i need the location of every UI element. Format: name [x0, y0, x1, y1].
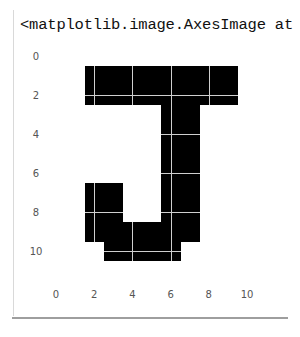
gridline-vertical [94, 183, 95, 203]
y-tick-label: 2 [33, 90, 39, 101]
gridline-horizontal [218, 95, 238, 96]
gridline-horizontal [85, 95, 105, 96]
x-tick-label: 2 [91, 289, 97, 300]
gridline-vertical [171, 105, 172, 125]
gridline-horizontal [180, 134, 200, 135]
image-pixel [218, 66, 238, 86]
gridline-horizontal [161, 251, 181, 252]
x-tick-label: 4 [129, 289, 135, 300]
gridline-horizontal [104, 95, 124, 96]
y-tick-label: 0 [33, 51, 39, 62]
gridline-horizontal [104, 212, 124, 213]
x-tick-label: 10 [241, 289, 254, 300]
gridline-vertical [132, 222, 133, 242]
y-tick-label: 4 [33, 129, 39, 140]
gridline-vertical [171, 183, 172, 203]
image-pixel [180, 66, 200, 86]
gridline-vertical [171, 144, 172, 164]
gridline-horizontal [180, 95, 200, 96]
image-pixel [104, 66, 124, 86]
gridline-horizontal [85, 212, 105, 213]
gridline-horizontal [180, 212, 200, 213]
gridline-vertical [132, 66, 133, 86]
image-pixel [180, 222, 200, 242]
image-pixel [104, 183, 124, 203]
x-tick-label: 0 [53, 289, 59, 300]
y-tick-label: 10 [30, 246, 43, 257]
cell-divider [12, 317, 288, 319]
x-tick-label: 6 [167, 289, 173, 300]
y-tick-label: 6 [33, 168, 39, 179]
gridline-horizontal [199, 95, 219, 96]
gridline-vertical [209, 66, 210, 86]
gridline-horizontal [161, 95, 181, 96]
x-tick-label: 8 [206, 289, 212, 300]
gridline-vertical [171, 66, 172, 86]
image-pixel [142, 66, 162, 86]
gridline-vertical [94, 66, 95, 86]
gridline-horizontal [123, 251, 143, 252]
gridline-horizontal [123, 95, 143, 96]
gridline-vertical [94, 222, 95, 242]
gridline-horizontal [180, 173, 200, 174]
gridline-horizontal [104, 251, 124, 252]
gridline-horizontal [161, 212, 181, 213]
image-pixel [180, 183, 200, 203]
image-pixel [142, 222, 162, 242]
gridline-vertical [171, 222, 172, 242]
image-pixel [180, 144, 200, 164]
gridline-horizontal [161, 173, 181, 174]
image-pixel [180, 105, 200, 125]
imshow-plot: 02468100246810 [0, 0, 300, 337]
gridline-horizontal [142, 95, 162, 96]
image-pixel [104, 222, 124, 242]
y-tick-label: 8 [33, 207, 39, 218]
gridline-horizontal [142, 251, 162, 252]
gridline-horizontal [161, 134, 181, 135]
